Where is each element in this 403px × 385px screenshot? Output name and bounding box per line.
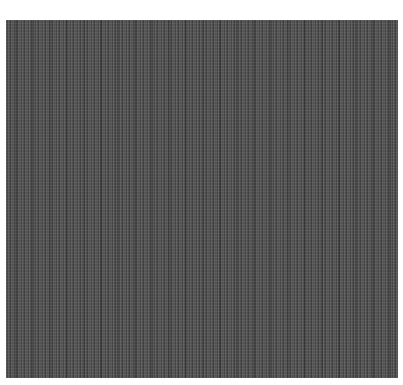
texture-overlay: [6, 20, 398, 378]
striped-texture-swatch: [6, 20, 398, 378]
